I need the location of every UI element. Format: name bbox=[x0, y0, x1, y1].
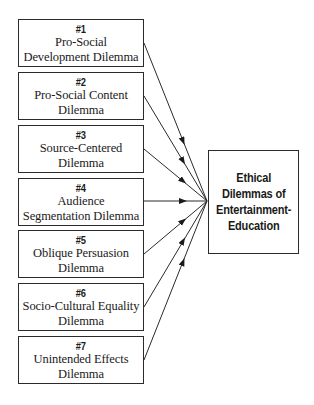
target-label: Ethical Dilemmas of Entertainment- Educa… bbox=[216, 170, 291, 234]
dilemma-number: #2 bbox=[76, 76, 86, 88]
dilemma-box-5: #5 Oblique Persuasion Dilemma bbox=[18, 230, 144, 278]
target-box-ethical-dilemmas: Ethical Dilemmas of Entertainment- Educa… bbox=[208, 150, 299, 254]
dilemma-label: Oblique Persuasion Dilemma bbox=[33, 246, 129, 276]
dilemma-number: #1 bbox=[76, 23, 86, 35]
arrow-5 bbox=[144, 201, 207, 254]
dilemma-box-7: #7 Unintended Effects Dilemma bbox=[18, 336, 144, 384]
dilemma-box-3: #3 Source-Centered Dilemma bbox=[18, 125, 144, 173]
arrow-6 bbox=[144, 201, 207, 307]
dilemma-label: Pro-Social Development Dilemma bbox=[23, 35, 138, 65]
arrow-3 bbox=[144, 149, 207, 201]
dilemma-label: Unintended Effects Dilemma bbox=[34, 352, 129, 382]
dilemma-number: #5 bbox=[76, 234, 86, 246]
dilemma-number: #4 bbox=[76, 182, 86, 194]
dilemma-box-2: #2 Pro-Social Content Dilemma bbox=[18, 72, 144, 120]
dilemma-number: #7 bbox=[76, 340, 86, 352]
arrow-7 bbox=[144, 201, 207, 360]
dilemma-box-6: #6 Socio-Cultural Equality Dilemma bbox=[18, 283, 144, 331]
dilemma-label: Audience Segmentation Dilemma bbox=[23, 194, 139, 224]
dilemma-label: Socio-Cultural Equality Dilemma bbox=[23, 299, 140, 329]
dilemma-box-1: #1 Pro-Social Development Dilemma bbox=[18, 19, 144, 67]
dilemma-label: Source-Centered Dilemma bbox=[40, 141, 123, 171]
arrow-2 bbox=[144, 96, 207, 201]
dilemma-box-4: #4 Audience Segmentation Dilemma bbox=[18, 178, 144, 226]
dilemma-label: Pro-Social Content Dilemma bbox=[34, 88, 128, 118]
dilemma-number: #6 bbox=[76, 287, 86, 299]
dilemma-number: #3 bbox=[76, 129, 86, 141]
arrow-1 bbox=[144, 43, 207, 201]
diagram-canvas: #1 Pro-Social Development Dilemma #2 Pro… bbox=[0, 0, 314, 405]
